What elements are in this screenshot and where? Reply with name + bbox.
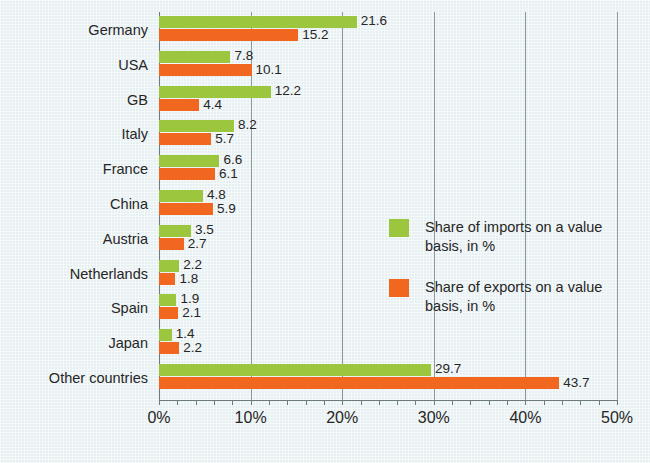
bar-exports [159, 203, 213, 215]
bar-group-row: Italy8.25.7 [159, 120, 650, 148]
bar-group-row: Other countries29.743.7 [159, 364, 650, 392]
bar-group-row: Germany21.615.2 [159, 16, 650, 44]
legend-swatch-exports-icon [389, 279, 409, 297]
bar-value-exports: 2.1 [182, 306, 201, 319]
bar-exports [159, 307, 178, 319]
x-tick-label: 0% [147, 408, 170, 428]
bar-exports [159, 377, 559, 389]
bar-exports [159, 133, 211, 145]
category-label: GB [0, 89, 148, 111]
bar-value-exports: 10.1 [256, 63, 282, 76]
legend-item-imports: Share of imports on a value basis, in % [389, 218, 619, 256]
bar-exports [159, 99, 199, 111]
category-label: France [0, 158, 148, 180]
bar-value-imports: 8.2 [238, 118, 257, 131]
category-label: Germany [0, 19, 148, 41]
bar-value-imports: 2.2 [183, 258, 202, 271]
bar-imports [159, 225, 191, 237]
bar-value-exports: 15.2 [302, 28, 328, 41]
bar-value-exports: 5.7 [215, 132, 234, 145]
bar-rows: Germany21.615.2USA7.810.1GB12.24.4Italy8… [159, 12, 617, 400]
bar-value-exports: 2.2 [183, 341, 202, 354]
bar-imports [159, 155, 219, 167]
x-tick-label: 10% [235, 408, 267, 428]
x-tick-label: 20% [326, 408, 358, 428]
legend-item-exports: Share of exports on a value basis, in % [389, 278, 619, 316]
bar-value-imports: 7.8 [234, 49, 253, 62]
category-label: Netherlands [0, 263, 148, 285]
category-label: Spain [0, 297, 148, 319]
x-tick-label: 40% [509, 408, 541, 428]
category-label: USA [0, 54, 148, 76]
bar-value-exports: 2.7 [188, 237, 207, 250]
bar-chart: Germany21.615.2USA7.810.1GB12.24.4Italy8… [0, 0, 650, 463]
bar-value-imports: 12.2 [275, 84, 301, 97]
bar-value-exports: 4.4 [203, 98, 222, 111]
bar-imports [159, 329, 172, 341]
bar-group-row: China4.85.9 [159, 190, 650, 218]
bar-exports [159, 29, 298, 41]
bar-group-row: USA7.810.1 [159, 51, 650, 79]
x-axis-baseline [159, 400, 617, 401]
bar-exports [159, 238, 184, 250]
bar-group-row: France6.66.1 [159, 155, 650, 183]
bar-value-exports: 5.9 [217, 202, 236, 215]
category-label: Other countries [0, 367, 148, 389]
bar-imports [159, 190, 203, 202]
chart-legend: Share of imports on a value basis, in % … [389, 218, 619, 338]
bar-imports [159, 364, 431, 376]
x-axis: 0%10%20%30%40%50% [159, 408, 617, 438]
bar-value-exports: 6.1 [219, 167, 238, 180]
category-label: Austria [0, 228, 148, 250]
bar-imports [159, 86, 271, 98]
bar-exports [159, 168, 215, 180]
category-label: Japan [0, 332, 148, 354]
legend-label-exports: Share of exports on a value basis, in % [425, 278, 605, 316]
bar-imports [159, 260, 179, 272]
bar-value-exports: 1.8 [179, 272, 198, 285]
bar-exports [159, 342, 179, 354]
legend-label-imports: Share of imports on a value basis, in % [425, 218, 605, 256]
category-label: Italy [0, 123, 148, 145]
bar-value-imports: 1.9 [180, 292, 199, 305]
legend-swatch-imports-icon [389, 219, 409, 237]
plot-area: Germany21.615.2USA7.810.1GB12.24.4Italy8… [159, 12, 617, 400]
bar-imports [159, 51, 230, 63]
bar-value-exports: 43.7 [563, 376, 589, 389]
bar-value-imports: 21.6 [361, 14, 387, 27]
x-tick-mark [617, 400, 618, 405]
x-tick-label: 30% [418, 408, 450, 428]
bar-exports [159, 64, 252, 76]
bar-group-row: GB12.24.4 [159, 86, 650, 114]
bar-exports [159, 273, 175, 285]
bar-value-imports: 4.8 [207, 188, 226, 201]
bar-value-imports: 3.5 [195, 223, 214, 236]
bar-value-imports: 1.4 [176, 327, 195, 340]
bar-imports [159, 294, 176, 306]
bar-value-imports: 6.6 [223, 153, 242, 166]
bar-value-imports: 29.7 [435, 362, 461, 375]
category-label: China [0, 193, 148, 215]
x-tick-label: 50% [601, 408, 633, 428]
